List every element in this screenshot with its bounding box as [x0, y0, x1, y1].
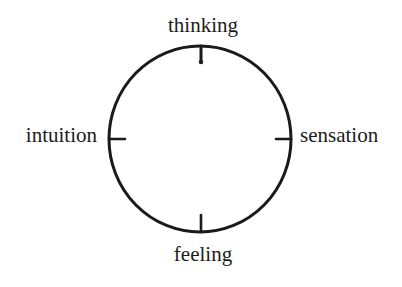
main-circle	[109, 46, 291, 232]
tick-top-dot	[199, 60, 203, 64]
label-feeling: feeling	[174, 244, 232, 265]
label-thinking: thinking	[168, 15, 238, 36]
function-circle-diagram: thinking feeling intuition sensation	[0, 0, 402, 287]
label-sensation: sensation	[300, 125, 378, 146]
label-intuition: intuition	[26, 125, 97, 146]
